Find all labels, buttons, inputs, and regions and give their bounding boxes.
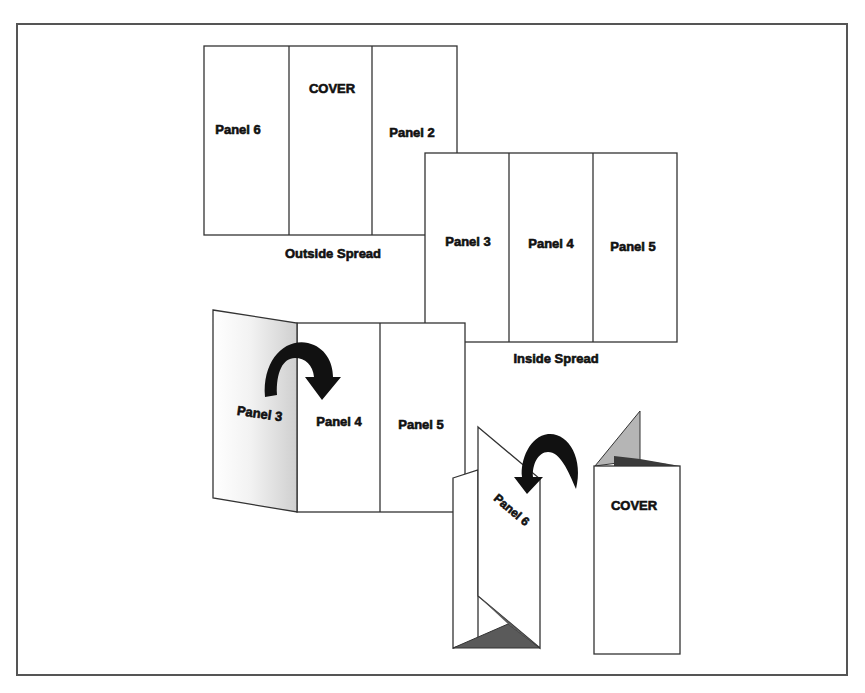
folding-panel-5-label: Panel 5 xyxy=(398,417,444,432)
inside-panel-4-label: Panel 4 xyxy=(528,236,574,251)
folded-cover-label: COVER xyxy=(611,498,658,513)
folding-inside-step: Panel 3 Panel 4 Panel 5 xyxy=(213,310,465,512)
inside-panel-3-label: Panel 3 xyxy=(445,234,491,249)
folding-panel-4-label: Panel 4 xyxy=(316,414,362,429)
outside-spread: Panel 6 COVER Panel 2 Outside Spread xyxy=(204,46,457,261)
outside-cover-label: COVER xyxy=(309,81,356,96)
outside-panel-2-label: Panel 2 xyxy=(389,125,435,140)
folded-brochure-step: Panel 6 COVER xyxy=(453,411,680,654)
brochure-fold-diagram: Panel 6 COVER Panel 2 Outside Spread Pan… xyxy=(0,0,865,693)
outside-panel-6-label: Panel 6 xyxy=(215,122,261,137)
inside-spread-caption: Inside Spread xyxy=(513,351,598,366)
fold-arrow-icon-2 xyxy=(514,434,578,494)
outside-spread-caption: Outside Spread xyxy=(285,246,381,261)
inside-panel-5-label: Panel 5 xyxy=(610,239,656,254)
